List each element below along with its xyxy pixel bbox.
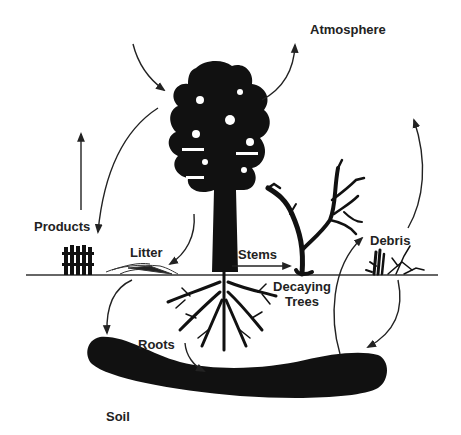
litter-pile	[106, 263, 178, 274]
dead-tree	[268, 160, 364, 274]
diagram-canvas	[0, 0, 461, 435]
arrow-debris-up	[408, 120, 423, 228]
arrow-soil-to-debris	[334, 238, 362, 354]
label-decaying-trees: Decaying Trees	[268, 279, 336, 309]
arrow-atmosphere-to-tree	[133, 44, 164, 90]
label-decaying: Decaying	[268, 279, 336, 294]
label-products: Products	[34, 219, 90, 234]
arrow-tree-to-atmosphere	[262, 45, 295, 100]
live-tree	[168, 61, 276, 350]
label-stems: Stems	[238, 247, 277, 262]
label-atmosphere: Atmosphere	[310, 22, 386, 37]
carbon-cycle-diagram: Atmosphere Products Litter Stems Debris …	[0, 0, 461, 435]
debris-pile	[366, 246, 424, 274]
arrow-litter-to-soil	[107, 280, 132, 333]
arrow-tree-to-products	[98, 108, 158, 232]
label-litter: Litter	[130, 245, 163, 260]
label-trees: Trees	[268, 294, 336, 309]
arrow-debris-to-soil	[368, 280, 400, 347]
fence	[62, 245, 94, 275]
label-soil: Soil	[106, 409, 130, 424]
label-debris: Debris	[370, 233, 410, 248]
arrow-tree-to-litter	[170, 214, 194, 264]
label-roots: Roots	[138, 337, 175, 352]
soil-mass	[87, 337, 387, 398]
